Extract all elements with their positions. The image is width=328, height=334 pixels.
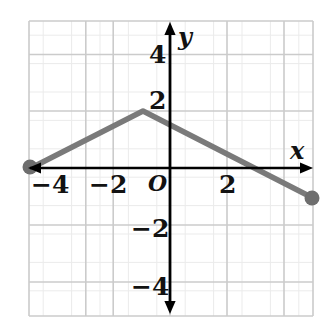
x-tick-label-2: 2 [219, 172, 236, 197]
x-tick-label-minus-2: −2 [89, 172, 127, 197]
y-tick-label-2: 2 [149, 88, 166, 113]
y-axis-arrow-up [164, 22, 175, 35]
y-tick-label-minus-4: −4 [131, 274, 169, 299]
endpoint-dot-right [305, 191, 320, 206]
graph-figure: −4 −2 2 4 2 −2 −4 O y x [0, 0, 328, 334]
y-tick-label-4: 4 [149, 42, 166, 67]
x-axis-label: x [290, 139, 304, 163]
y-tick-label-minus-2: −2 [131, 216, 169, 241]
y-axis-label: y [178, 25, 192, 49]
y-axis-arrow-down [164, 301, 175, 314]
origin-label: O [148, 172, 167, 194]
x-tick-label-minus-4: −4 [31, 172, 69, 197]
